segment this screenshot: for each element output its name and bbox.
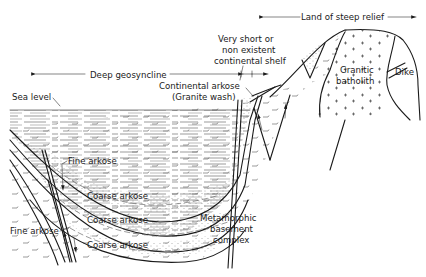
shelf-label-line1: Very short or: [218, 34, 274, 44]
fine-arkose-lower-text: Fine arkose: [10, 226, 59, 236]
metamorphic-text: Metamorphic: [200, 213, 257, 223]
coarse-arkose-2-text: Coarse arkose: [87, 215, 148, 225]
sea-level-text: Sea level: [12, 92, 51, 102]
shelf-label: Very short or non existent continental s…: [214, 34, 287, 80]
continental-arkose-text-2: (Granite wash): [172, 92, 236, 102]
sea-level-label: Sea level: [12, 92, 60, 106]
deep-geosyncline-label: Deep geosyncline: [36, 70, 243, 80]
shelf-label-line2: non existent: [222, 45, 276, 55]
granitic-text: Granitic: [340, 65, 374, 75]
coarse-arkose-3-text: Coarse arkose: [87, 240, 148, 250]
continental-arkose-text-1: Continental arkose: [159, 81, 240, 91]
continental-arkose-label: Continental arkose (Granite wash): [159, 81, 253, 102]
complex-text: complex: [213, 235, 249, 245]
fine-arkose-upper-text: Fine arkose: [68, 156, 117, 166]
shelf-label-line3: continental shelf: [214, 56, 287, 66]
batholith-text: batholith: [336, 76, 374, 86]
granitic-batholith-label: Granitic batholith: [336, 65, 374, 86]
land-of-steep-relief-label: Land of steep relief: [264, 12, 416, 22]
deep-geosyncline-text: Deep geosyncline: [90, 70, 167, 80]
dike-text: Dike: [395, 67, 414, 77]
dike-label: Dike: [395, 67, 414, 77]
basement-text: basement: [210, 224, 254, 234]
geosyncline-cross-section: Land of steep relief Deep geosyncline Ve…: [0, 0, 426, 277]
land-of-steep-relief-text: Land of steep relief: [301, 12, 385, 22]
coarse-arkose-1-text: Coarse arkose: [87, 191, 148, 201]
